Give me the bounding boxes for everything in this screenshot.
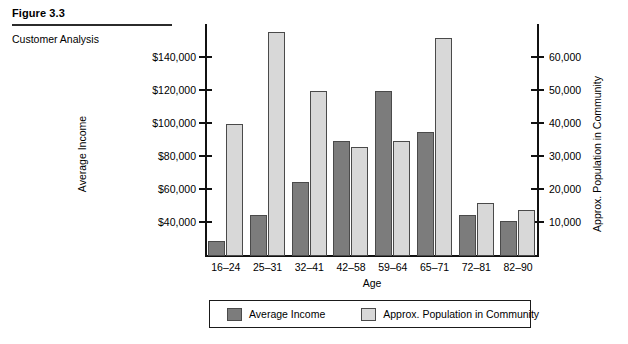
bar-group xyxy=(330,25,372,256)
x-axis-title: Age xyxy=(205,277,539,289)
right-axis-tick-label: 60,000 xyxy=(549,52,581,63)
bar-group xyxy=(497,25,539,256)
right-axis-tick-label: 20,000 xyxy=(549,184,581,195)
x-axis-category-label: 25–31 xyxy=(246,261,290,273)
x-axis-category-label: 42–58 xyxy=(329,261,373,273)
right-axis-tick-label: 40,000 xyxy=(549,118,581,129)
chart-legend: Average Income Approx. Population in Com… xyxy=(209,300,531,328)
legend-swatch-population xyxy=(361,308,376,321)
bar-population xyxy=(477,203,494,256)
bar-group xyxy=(414,25,456,256)
bar-population xyxy=(435,38,452,256)
bar-population xyxy=(393,141,410,257)
x-axis-category-label: 59–64 xyxy=(371,261,415,273)
bar-group xyxy=(456,25,498,256)
right-axis-title: Approx. Population in Community xyxy=(591,54,603,254)
bar-average-income xyxy=(333,141,350,257)
legend-label-average-income: Average Income xyxy=(249,308,325,320)
figure-page: Figure 3.3 Customer Analysis $40,000$60,… xyxy=(0,0,628,344)
bar-population xyxy=(226,124,243,256)
bar-average-income xyxy=(417,132,434,256)
bar-population xyxy=(268,32,285,256)
right-axis-tick-label: 30,000 xyxy=(549,151,581,162)
bar-groups xyxy=(205,24,539,256)
bar-average-income xyxy=(208,241,225,256)
x-axis-category-label: 82–90 xyxy=(496,261,540,273)
bar-average-income xyxy=(375,91,392,256)
chart-plot-area: $40,000$60,000$80,000$100,000$120,000$14… xyxy=(0,0,628,344)
bar-population xyxy=(310,91,327,256)
legend-label-population: Approx. Population in Community xyxy=(383,308,539,320)
x-axis-category-label: 32–41 xyxy=(287,261,331,273)
x-axis-category-label: 16–24 xyxy=(204,261,248,273)
left-axis-tick-label: $80,000 xyxy=(158,151,196,162)
right-axis-tick-label: 10,000 xyxy=(549,217,581,228)
bar-population xyxy=(518,210,535,256)
legend-item-population: Approx. Population in Community xyxy=(361,308,539,321)
bar-average-income xyxy=(500,221,517,256)
left-axis-tick-label: $60,000 xyxy=(158,184,196,195)
bar-group xyxy=(247,25,289,256)
bar-group xyxy=(205,25,247,256)
x-axis-category-label: 72–81 xyxy=(454,261,498,273)
bar-average-income xyxy=(250,215,267,256)
bar-group xyxy=(289,25,331,256)
bar-average-income xyxy=(459,215,476,256)
legend-swatch-average-income xyxy=(227,308,242,321)
right-axis-tick-label: 50,000 xyxy=(549,85,581,96)
bar-population xyxy=(351,147,368,256)
left-axis-tick-label: $40,000 xyxy=(158,217,196,228)
bar-group xyxy=(372,25,414,256)
left-axis-tick-label: $120,000 xyxy=(152,85,196,96)
left-axis-tick-label: $140,000 xyxy=(152,52,196,63)
x-axis-category-label: 65–71 xyxy=(413,261,457,273)
left-axis-tick-label: $100,000 xyxy=(152,118,196,129)
bar-average-income xyxy=(292,182,309,256)
legend-item-average-income: Average Income xyxy=(227,308,325,321)
left-axis-title: Average Income xyxy=(76,54,88,254)
